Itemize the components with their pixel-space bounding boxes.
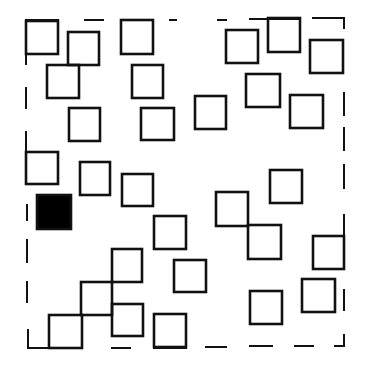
outlined-square xyxy=(246,74,280,107)
outlined-square xyxy=(216,192,248,226)
outlined-square xyxy=(302,279,335,312)
outlined-square xyxy=(141,108,174,140)
outlined-square xyxy=(195,96,226,129)
outlined-square xyxy=(310,40,343,73)
filled-square xyxy=(37,195,71,229)
outlined-square xyxy=(26,152,58,184)
outlined-square xyxy=(250,291,282,324)
outlined-square xyxy=(26,21,58,54)
outlined-square xyxy=(154,216,186,249)
outlined-square xyxy=(80,162,110,195)
outlined-square xyxy=(47,65,79,98)
outlined-square xyxy=(122,174,153,206)
outlined-square xyxy=(268,18,300,52)
square-scatter-diagram xyxy=(0,0,371,374)
outlined-square xyxy=(313,236,344,269)
outlined-square xyxy=(270,170,302,203)
outlined-square xyxy=(81,282,112,315)
outlined-square xyxy=(154,314,186,347)
outlined-square xyxy=(132,65,163,98)
outlined-square xyxy=(112,249,142,282)
outlined-square xyxy=(248,225,281,259)
outlined-square xyxy=(121,20,153,54)
squares xyxy=(26,18,344,348)
outlined-square xyxy=(49,315,82,348)
outlined-square xyxy=(290,95,323,128)
dashed-border xyxy=(26,18,344,348)
outlined-square xyxy=(68,32,99,65)
outlined-square xyxy=(112,304,143,336)
outlined-square xyxy=(69,108,100,141)
outlined-square xyxy=(174,260,206,292)
outlined-square xyxy=(226,30,258,63)
